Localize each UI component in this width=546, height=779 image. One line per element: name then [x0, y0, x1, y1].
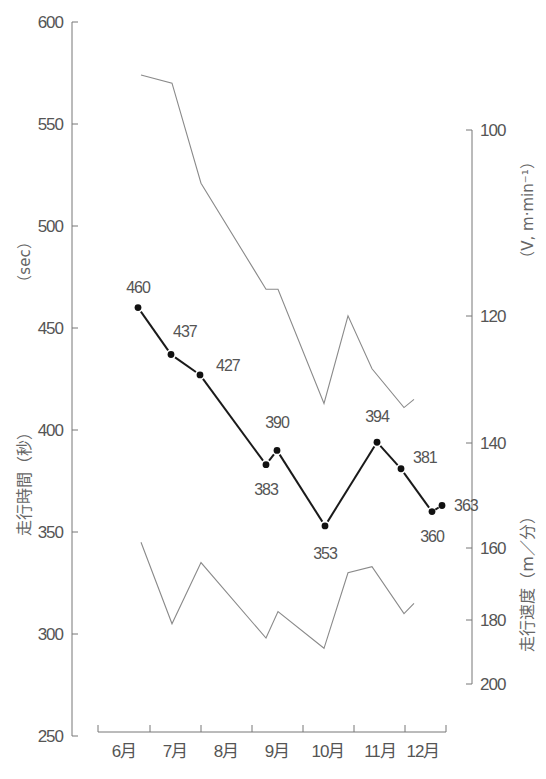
- right-axis-unit: （V, m·min⁻¹）: [519, 154, 537, 265]
- data-point-marker: [439, 502, 446, 509]
- left-tick-label: 400: [38, 421, 64, 440]
- right-axis-label: 走行速度（m／分）: [518, 508, 537, 652]
- data-point-marker: [263, 461, 270, 468]
- left-tick-label: 350: [38, 523, 64, 542]
- data-point-marker: [429, 508, 436, 515]
- lower-limit-line: [141, 542, 414, 648]
- data-point-marker: [398, 465, 405, 472]
- data-point-label: 353: [313, 545, 338, 562]
- right-tick-label: 140: [480, 434, 506, 453]
- data-point-marker: [274, 447, 281, 454]
- data-point-label: 390: [265, 414, 290, 431]
- right-tick-label: 100: [480, 121, 506, 140]
- right-tick-label: 160: [480, 539, 506, 558]
- x-axis: 6月7月8月9月10月11月12月: [98, 725, 446, 761]
- left-y-axis: 600550500450400350300250: [38, 13, 78, 746]
- data-point-marker: [135, 304, 142, 311]
- data-point-label: 427: [216, 357, 241, 374]
- left-tick-label: 250: [38, 727, 64, 746]
- x-tick-label: 12月: [407, 742, 440, 761]
- data-point-marker: [374, 439, 381, 446]
- chart: 600550500450400350300250 100120140160180…: [0, 0, 546, 779]
- data-point-label: 383: [254, 481, 279, 498]
- left-tick-label: 300: [38, 625, 64, 644]
- right-y-axis: 100120140160180200: [466, 121, 506, 694]
- left-tick-label: 450: [38, 319, 64, 338]
- right-tick-label: 200: [480, 675, 506, 694]
- running-time-line: 460437427383390353394381360363: [126, 279, 479, 562]
- right-tick-label: 120: [480, 307, 506, 326]
- data-point-marker: [322, 522, 329, 529]
- left-tick-label: 500: [38, 217, 64, 236]
- left-axis-label: 走行時間（秒）: [15, 424, 34, 536]
- data-point-label: 437: [173, 323, 198, 340]
- upper-limit-line: [141, 75, 414, 408]
- data-point-label: 460: [126, 279, 151, 296]
- left-axis-unit: （sec）: [16, 234, 34, 289]
- right-axis-title: （V, m·min⁻¹） 走行速度（m／分）: [518, 154, 537, 652]
- left-tick-label: 600: [38, 13, 64, 32]
- x-tick-label: 11月: [364, 742, 396, 761]
- left-tick-label: 550: [38, 115, 64, 134]
- right-tick-label: 180: [480, 611, 506, 630]
- x-tick-label: 9月: [265, 742, 289, 761]
- data-point-marker: [168, 351, 175, 358]
- data-point-label: 394: [365, 408, 390, 425]
- x-tick-label: 10月: [312, 742, 345, 761]
- x-tick-label: 6月: [112, 742, 136, 761]
- data-point-label: 363: [454, 497, 479, 514]
- data-point-label: 360: [420, 528, 445, 545]
- data-point-marker: [197, 372, 204, 379]
- data-point-label: 381: [413, 449, 438, 466]
- x-tick-label: 7月: [163, 742, 187, 761]
- x-tick-label: 8月: [214, 742, 238, 761]
- left-axis-title: （sec） 走行時間（秒）: [15, 234, 34, 536]
